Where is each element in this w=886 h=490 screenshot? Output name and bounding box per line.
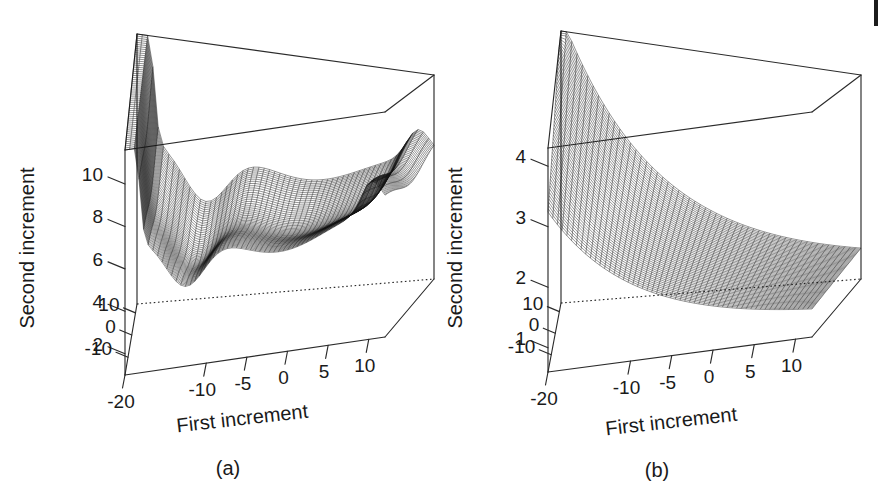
panel-a-z-tick-label: 8 bbox=[92, 206, 103, 227]
panel-a-x-tick-label: -20 bbox=[107, 391, 134, 412]
panel-b-caption: (b) bbox=[645, 459, 669, 481]
panel-a-x-tick-label: -10 bbox=[189, 379, 216, 400]
page-edge-mark-icon bbox=[874, 0, 878, 26]
panel-a-x-tick-label: -5 bbox=[234, 373, 251, 394]
panel-a-z-tick-label: 4 bbox=[92, 291, 103, 312]
panel-b-z-tick-label: 1 bbox=[515, 328, 526, 349]
panel-a-x-tick-label: 10 bbox=[354, 355, 375, 376]
panel-a-y-tick-label: 0 bbox=[105, 316, 116, 337]
panel-b-y-axis-title: Second increment bbox=[444, 167, 466, 329]
panel-b-x-tick-label: -10 bbox=[613, 377, 640, 398]
panel-a-caption: (a) bbox=[216, 457, 240, 479]
figure-root: -20-10-50510-10010246810 First increment… bbox=[0, 0, 886, 490]
panel-b-x-tick-label: 0 bbox=[704, 366, 715, 387]
panel-b-x-tick-label: -20 bbox=[530, 388, 557, 409]
panel-a-x-tick-label: 5 bbox=[319, 361, 330, 382]
panel-b-y-tick-label: 10 bbox=[522, 293, 543, 314]
panel-b-x-tick-label: 5 bbox=[745, 361, 756, 382]
panel-b-y-tick-label: 0 bbox=[529, 314, 540, 335]
panel-b-z-tick-label: 2 bbox=[515, 267, 526, 288]
panel-b-x-tick-label: 10 bbox=[781, 355, 802, 376]
panel-a-z-tick-label: 10 bbox=[82, 164, 103, 185]
panel-a-x-tick-label: 0 bbox=[278, 367, 289, 388]
panel-b-x-tick-label: -5 bbox=[659, 372, 676, 393]
panel-b-z-tick-label: 3 bbox=[515, 207, 526, 228]
panel-a-z-tick-label: 6 bbox=[92, 249, 103, 270]
panel-b-z-tick-label: 4 bbox=[515, 146, 526, 167]
panel-a-y-axis-title: Second increment bbox=[16, 167, 38, 329]
panel-a-z-tick-label: 2 bbox=[92, 334, 103, 355]
